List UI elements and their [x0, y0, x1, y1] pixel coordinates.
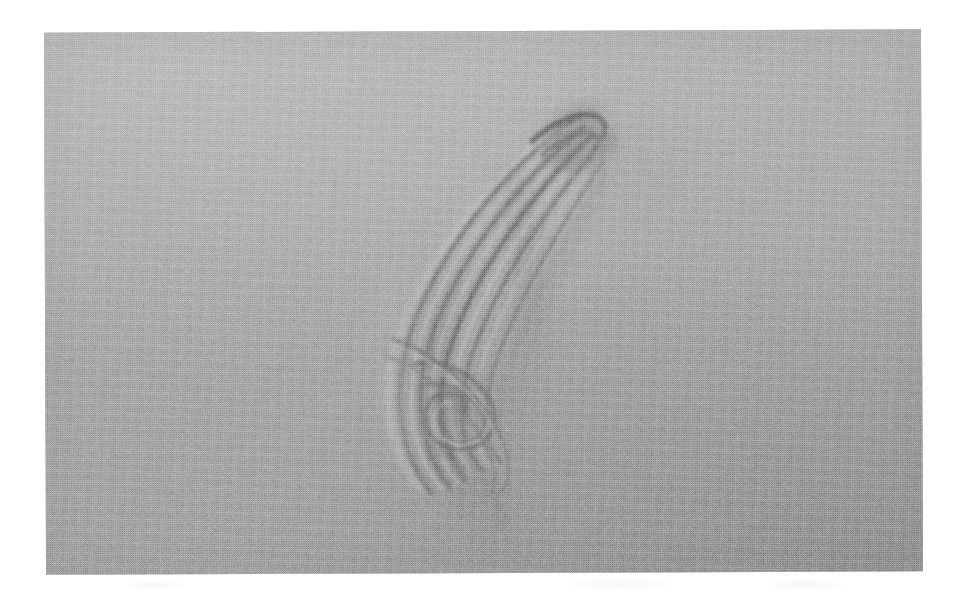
paper-smudge — [120, 580, 190, 590]
paper-smudge — [760, 578, 850, 592]
figure-root: Scanned halftone photograph showing a cr… — [0, 0, 970, 596]
crescent-layered-structure — [44, 29, 923, 574]
figure-alt-text: Scanned halftone photograph showing a cr… — [0, 0, 1, 1]
paper-smudge — [560, 576, 680, 592]
photograph — [44, 29, 923, 574]
upper-halo — [562, 114, 702, 223]
